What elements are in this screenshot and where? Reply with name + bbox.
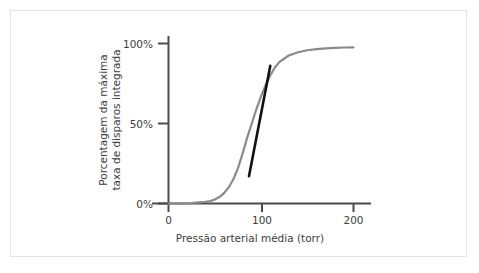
sigmoid-curve-path (169, 47, 354, 203)
y-axis-title-line1: Porcentagem da máxima (97, 54, 109, 186)
figure-screenshot: 100% 50% 0% 0 100 200 Pressão arterial m… (0, 0, 479, 273)
x-axis-title: Pressão arterial média (torr) (176, 232, 324, 244)
y-axis-title-line2: taxa de disparos integrada (110, 49, 122, 190)
y-tick-labels: 100% 50% 0% (123, 38, 153, 210)
x-axis-ticks (169, 204, 354, 213)
y-tick-label-0: 0% (136, 198, 153, 210)
x-tick-label-100: 100 (252, 214, 272, 226)
series-sigmoid-curve (169, 47, 354, 203)
y-axis-ticks (158, 44, 169, 204)
axes-group (152, 36, 371, 204)
x-tick-labels: 0 100 200 (165, 214, 363, 226)
baroreceptor-firing-rate-chart: 100% 50% 0% 0 100 200 Pressão arterial m… (0, 0, 479, 273)
y-tick-label-100: 100% (123, 38, 153, 50)
x-tick-label-200: 200 (343, 214, 363, 226)
x-tick-label-0: 0 (165, 214, 172, 226)
y-tick-label-50: 50% (130, 118, 153, 130)
